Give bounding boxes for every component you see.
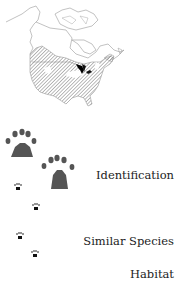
- small-paw-print-icon: [31, 250, 39, 257]
- animal-tracks: [0, 110, 90, 290]
- small-paw-print-icon: [32, 203, 40, 210]
- nav-habitat-link[interactable]: Habitat: [130, 267, 174, 281]
- range-map: [0, 0, 179, 110]
- nav-identification-link[interactable]: Identification: [96, 168, 174, 182]
- paw-print-icon: [42, 155, 75, 189]
- small-paw-print-icon: [16, 232, 24, 239]
- small-paw-print-icon: [14, 183, 22, 190]
- paw-print-icon: [6, 129, 37, 157]
- nav-similar-species-link[interactable]: Similar Species: [83, 234, 174, 248]
